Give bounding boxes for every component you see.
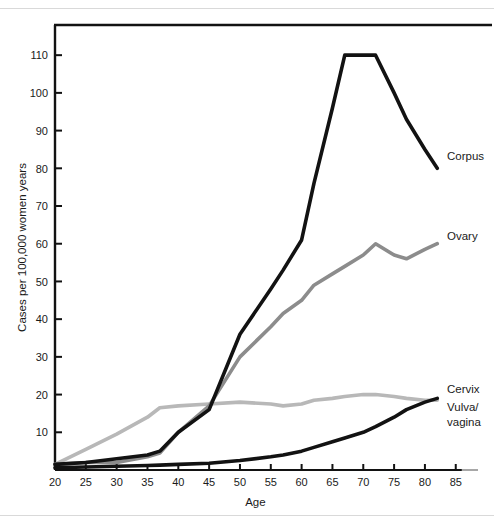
x-tick-label: 50 [234, 476, 246, 488]
x-tick-label: 45 [203, 476, 215, 488]
x-tick-label: 85 [450, 476, 462, 488]
series-label-vulva-vagina: Vulva/ [447, 401, 479, 413]
y-tick-label: 30 [36, 351, 48, 363]
y-tick-label: 20 [36, 389, 48, 401]
figure-container: 102030405060708090100110 202530354045505… [0, 0, 494, 523]
x-tick-label: 60 [295, 476, 307, 488]
y-tick-label: 60 [36, 238, 48, 250]
y-axis-title: Cases per 100,000 women years [16, 163, 28, 332]
y-tick-label: 80 [36, 163, 48, 175]
y-tick-label: 100 [30, 87, 48, 99]
x-tick-label: 20 [49, 476, 61, 488]
series-label-vulva-vagina-2: vagina [447, 416, 481, 428]
x-tick-label: 65 [326, 476, 338, 488]
series-line-ovary [55, 244, 437, 465]
y-tick-label: 90 [36, 125, 48, 137]
series-labels: CorpusOvaryCervixVulva/vagina [447, 150, 484, 428]
series-label-ovary: Ovary [447, 230, 478, 242]
x-tick-label: 70 [357, 476, 369, 488]
y-tick-label: 110 [30, 49, 48, 61]
line-chart: 102030405060708090100110 202530354045505… [0, 0, 494, 523]
x-tick-label: 80 [419, 476, 431, 488]
y-tick-label: 10 [36, 426, 48, 438]
data-series [55, 55, 437, 468]
series-label-cervix: Cervix [447, 383, 480, 395]
y-tick-label: 40 [36, 313, 48, 325]
y-axis-ticks: 102030405060708090100110 [30, 49, 62, 438]
series-label-corpus: Corpus [447, 150, 484, 162]
x-tick-label: 25 [80, 476, 92, 488]
y-tick-label: 70 [36, 200, 48, 212]
y-tick-label: 50 [36, 276, 48, 288]
x-tick-label: 30 [111, 476, 123, 488]
series-line-vulva-vagina [55, 398, 437, 467]
x-tick-label: 55 [265, 476, 277, 488]
chart-svg: 102030405060708090100110 202530354045505… [0, 0, 494, 523]
x-tick-label: 40 [172, 476, 184, 488]
x-tick-label: 35 [141, 476, 153, 488]
series-line-cervix [55, 395, 437, 465]
x-tick-label: 75 [388, 476, 400, 488]
x-axis-title: Age [245, 496, 265, 508]
